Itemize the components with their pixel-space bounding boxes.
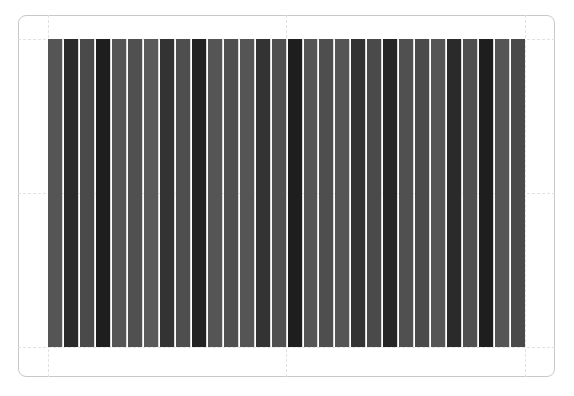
bar-7 — [144, 39, 159, 347]
bar-12 — [224, 39, 239, 347]
bar-10 — [192, 39, 207, 347]
bar-6 — [128, 39, 143, 347]
bar-11 — [208, 39, 223, 347]
bar-21 — [367, 39, 382, 347]
bar-16 — [288, 39, 303, 347]
bar-14 — [256, 39, 271, 347]
bar-24 — [415, 39, 430, 347]
bar-29 — [495, 39, 510, 347]
bar-15 — [272, 39, 287, 347]
bar-13 — [240, 39, 255, 347]
bar-4 — [96, 39, 111, 347]
bar-17 — [304, 39, 319, 347]
bar-plot-area — [48, 39, 525, 347]
gridline-horizontal — [18, 347, 555, 348]
bar-5 — [112, 39, 127, 347]
bar-8 — [160, 39, 175, 347]
bar-23 — [399, 39, 414, 347]
bar-19 — [335, 39, 350, 347]
bar-30 — [511, 39, 525, 347]
bar-20 — [351, 39, 366, 347]
bar-18 — [319, 39, 334, 347]
bar-9 — [176, 39, 191, 347]
bar-2 — [64, 39, 79, 347]
bar-1 — [48, 39, 63, 347]
bar-28 — [479, 39, 494, 347]
bar-25 — [431, 39, 446, 347]
bar-27 — [463, 39, 478, 347]
bar-3 — [80, 39, 95, 347]
gridline-vertical — [525, 15, 526, 377]
bar-22 — [383, 39, 398, 347]
bar-26 — [447, 39, 462, 347]
